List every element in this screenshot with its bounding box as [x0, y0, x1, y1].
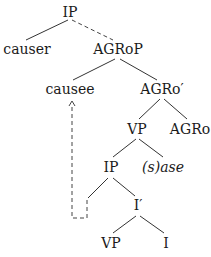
edge-vp-sase	[139, 139, 163, 157]
edge-ip-ibar	[113, 178, 135, 196]
node-causee: causee	[46, 81, 95, 97]
edge-agrobar-vp	[139, 99, 160, 119]
syntax-tree: IP causer AGRoP causee AGRo′ VP AGRo IP …	[0, 0, 211, 257]
node-vp-upper: VP	[126, 121, 147, 137]
edge-agrop-agrobar	[120, 59, 157, 80]
movement-trace-line	[72, 106, 87, 218]
edge-agrop-causee	[73, 59, 115, 80]
node-sase: (s)ase	[142, 159, 184, 175]
edge-ip-agrop-dashed	[72, 20, 113, 40]
edge-ibar-vp	[113, 216, 136, 233]
edge-vp-ip	[113, 139, 136, 157]
node-i-head: I	[163, 235, 169, 251]
node-vp-lower: VP	[100, 235, 121, 251]
node-agro-bar: AGRo′	[139, 81, 183, 97]
edge-ip-causer	[26, 20, 68, 40]
edge-ibar-i	[140, 216, 164, 233]
node-causer: causer	[3, 41, 51, 57]
edge-agrobar-agro	[164, 99, 187, 119]
node-ip-root: IP	[63, 4, 78, 20]
node-agro-head: AGRo	[169, 121, 210, 137]
node-ip-lower: IP	[104, 159, 119, 175]
node-agrop: AGRoP	[92, 41, 143, 57]
node-i-bar: I′	[134, 197, 143, 213]
edge-ip-empty-spec	[88, 178, 108, 198]
arrowhead-up-icon	[69, 101, 75, 106]
